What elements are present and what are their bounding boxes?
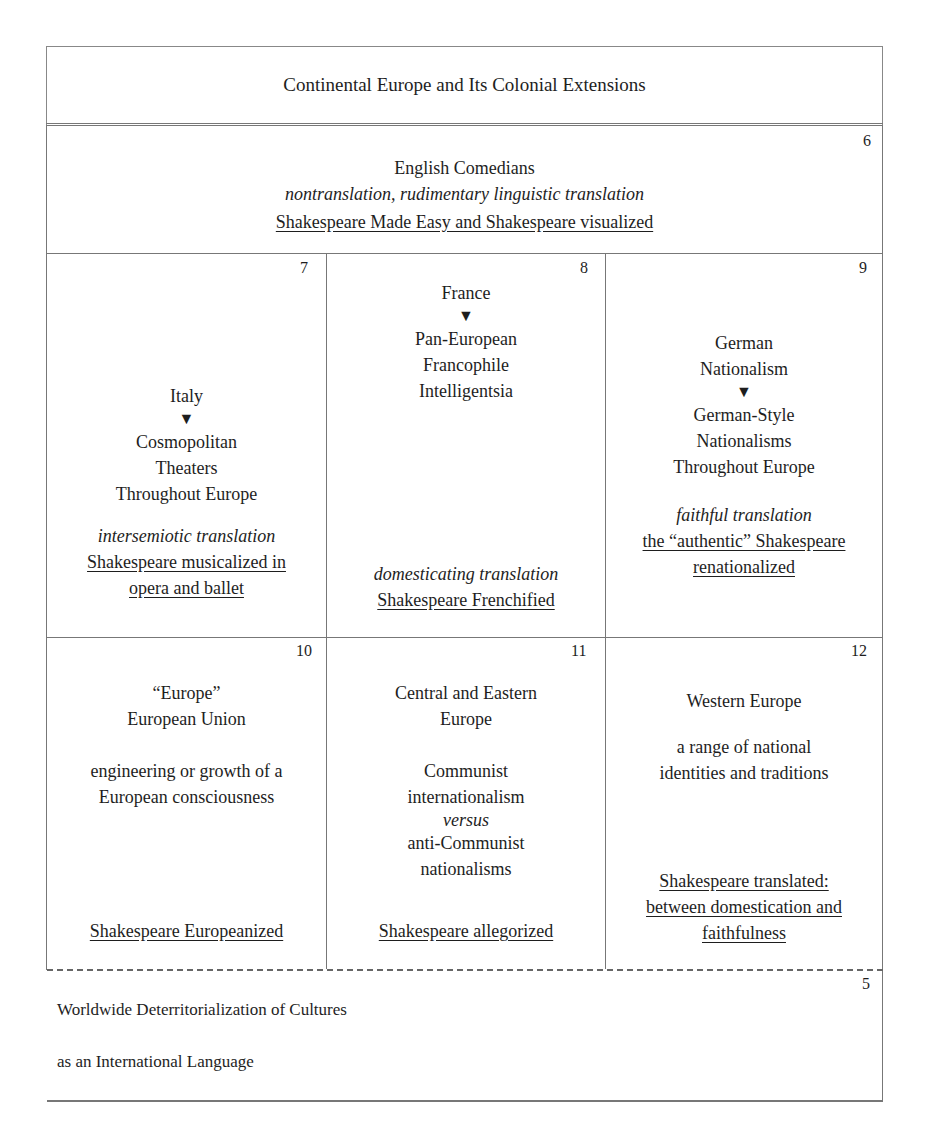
box-7-target-2: Theaters — [47, 455, 326, 481]
box-8-outcome: Shakespeare Frenchified — [327, 587, 605, 613]
box-12-description-2: identities and traditions — [606, 760, 882, 786]
box-8-target-2: Francophile — [327, 352, 605, 378]
box-10-outcome: Shakespeare Europeanized — [47, 918, 326, 944]
box-7-target-1: Cosmopolitan — [47, 429, 326, 455]
box-11-number: 11 — [571, 642, 586, 660]
box-10-number: 10 — [296, 642, 312, 660]
box-11-title-1: Central and Eastern — [327, 680, 605, 706]
box-6-title: English Comedians — [46, 155, 883, 181]
box-12-outcome-3: faithfulness — [606, 920, 882, 946]
box-11-footer: Shakespeare allegorized — [327, 918, 605, 944]
box-10-title-2: European Union — [47, 706, 326, 732]
dashed-divider — [47, 969, 883, 971]
diagram-title: Continental Europe and Its Colonial Exte… — [46, 46, 883, 124]
bottom-border — [47, 1100, 883, 1102]
box-7-outcome-2: opera and ballet — [47, 575, 326, 601]
box-8: France ▼ Pan-European Francophile Intell… — [327, 280, 605, 404]
box-6-number: 6 — [863, 132, 871, 150]
box-9-outcome-1: the “authentic” Shakespeare — [606, 528, 882, 554]
box-9: German Nationalism ▼ German-Style Nation… — [606, 330, 882, 580]
down-arrow-icon: ▼ — [606, 382, 882, 402]
row-divider-1 — [46, 253, 883, 254]
box-9-translation-mode: faithful translation — [606, 502, 882, 528]
box-8-origin: France — [327, 280, 605, 306]
box-12: Western Europe a range of national ident… — [606, 688, 882, 786]
box-11-outcome: Shakespeare allegorized — [327, 918, 605, 944]
box-7-origin: Italy — [47, 383, 326, 409]
box-6: English Comedians nontranslation, rudime… — [46, 155, 883, 235]
box-11-description-1: Communist — [327, 758, 605, 784]
box-12-footer: Shakespeare translated: between domestic… — [606, 868, 882, 946]
right-border — [882, 126, 883, 1101]
box-10-footer: Shakespeare Europeanized — [47, 918, 326, 944]
box-5-line-2: as an International Language — [57, 1052, 254, 1072]
box-9-target-1: German-Style — [606, 402, 882, 428]
box-11-description-2: internationalism — [327, 784, 605, 810]
box-8-target-3: Intelligentsia — [327, 378, 605, 404]
box-10-description-2: European consciousness — [47, 784, 326, 810]
box-9-number: 9 — [859, 259, 867, 277]
box-11: Central and Eastern Europe Communist int… — [327, 680, 605, 882]
box-12-number: 12 — [851, 642, 867, 660]
box-10-description-1: engineering or growth of a — [47, 758, 326, 784]
box-9-target-2: Nationalisms — [606, 428, 882, 454]
box-9-target-3: Throughout Europe — [606, 454, 882, 480]
box-11-description2-1: anti-Communist — [327, 830, 605, 856]
box-6-translation-mode: nontranslation, rudimentary linguistic t… — [46, 181, 883, 207]
down-arrow-icon: ▼ — [327, 306, 605, 326]
box-7-target-3: Throughout Europe — [47, 481, 326, 507]
box-12-title: Western Europe — [606, 688, 882, 714]
box-12-outcome-2: between domestication and — [606, 894, 882, 920]
box-5-line-1: Worldwide Deterritorialization of Cultur… — [57, 1000, 347, 1020]
box-7-number: 7 — [300, 259, 308, 277]
box-8-footer: domesticating translation Shakespeare Fr… — [327, 561, 605, 613]
box-8-translation-mode: domesticating translation — [327, 561, 605, 587]
box-7: Italy ▼ Cosmopolitan Theaters Throughout… — [47, 383, 326, 601]
box-11-description2-2: nationalisms — [327, 856, 605, 882]
box-8-number: 8 — [580, 259, 588, 277]
box-6-outcome: Shakespeare Made Easy and Shakespeare vi… — [46, 209, 883, 235]
box-12-description-1: a range of national — [606, 734, 882, 760]
box-7-translation-mode: intersemiotic translation — [47, 523, 326, 549]
box-11-title-2: Europe — [327, 706, 605, 732]
box-5-number: 5 — [862, 975, 870, 993]
box-10: “Europe” European Union engineering or g… — [47, 680, 326, 810]
row-divider-2 — [46, 637, 883, 638]
box-9-origin-2: Nationalism — [606, 356, 882, 382]
box-9-outcome-2: renationalized — [606, 554, 882, 580]
box-10-title-1: “Europe” — [47, 680, 326, 706]
box-9-origin-1: German — [606, 330, 882, 356]
box-12-outcome-1: Shakespeare translated: — [606, 868, 882, 894]
box-7-outcome-1: Shakespeare musicalized in — [47, 549, 326, 575]
box-11-versus: versus — [327, 810, 605, 830]
down-arrow-icon: ▼ — [47, 409, 326, 429]
box-8-target-1: Pan-European — [327, 326, 605, 352]
